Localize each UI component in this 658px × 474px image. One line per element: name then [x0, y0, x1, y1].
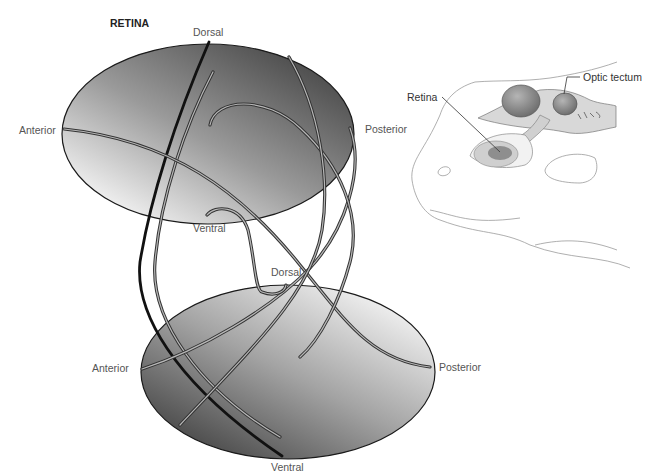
retina-ellipse — [62, 44, 354, 224]
tectum-label-ventral: Ventral — [271, 461, 304, 473]
retina-leader-line — [442, 97, 500, 152]
fish-retina — [488, 146, 512, 160]
brain-body — [478, 89, 616, 133]
fish-nostril — [438, 167, 450, 176]
tectum-label-dorsal: Dorsal — [271, 266, 301, 278]
tectum-label-posterior: Posterior — [439, 361, 482, 373]
tectum-label-anterior: Anterior — [92, 362, 129, 374]
retina-label-dorsal: Dorsal — [193, 26, 223, 38]
fish-lower-line — [535, 241, 617, 250]
retinotectal-map-diagram: RETINA Dorsal Anterior Posterior Ventral… — [0, 0, 658, 474]
fish-jaw-line — [430, 210, 520, 220]
inset-retina-label: Retina — [407, 91, 438, 103]
brain-forebrain — [502, 85, 540, 117]
brain-optic-tectum — [553, 93, 577, 115]
retina-label-posterior: Posterior — [365, 123, 408, 135]
fish-gill-outline — [545, 154, 597, 183]
retina-label-ventral: Ventral — [193, 222, 226, 234]
retina-label-anterior: Anterior — [19, 124, 56, 136]
retina-title: RETINA — [110, 17, 150, 29]
fish-head-inset — [412, 62, 630, 268]
retina-ellipse-group — [62, 44, 354, 224]
inset-tectum-label: Optic tectum — [583, 71, 642, 83]
